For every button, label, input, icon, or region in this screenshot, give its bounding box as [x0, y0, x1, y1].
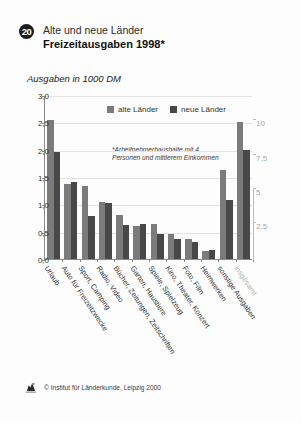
- secondary-axis-tick-label: 7,5: [256, 153, 267, 162]
- header-kicker: Alte und neue Länder: [43, 24, 165, 36]
- page-title: Freizeitausgaben 1998*: [43, 38, 165, 51]
- axis-unit-label: Ausgaben in 1000 DM: [27, 73, 121, 84]
- bar-group: [183, 96, 200, 259]
- footer: © Institut für Länderkunde, Leipzig 2000: [24, 380, 161, 394]
- x-axis-category-labels: UrlaubAuto für FreizeitzweckeSport, Camp…: [44, 264, 252, 360]
- secondary-axis-tick-mark: [253, 222, 256, 223]
- bar: [54, 152, 61, 259]
- x-axis-tick-mark: [114, 259, 115, 262]
- bar: [174, 239, 181, 259]
- x-axis-tick-mark: [166, 259, 167, 262]
- bar-group: [62, 96, 79, 259]
- bar-group: [131, 96, 148, 259]
- secondary-axis-tick-mark: [253, 188, 256, 189]
- bar-group: [218, 96, 235, 259]
- bar: [71, 182, 78, 259]
- x-axis-tick-mark: [62, 259, 63, 262]
- bar-group: [97, 96, 114, 259]
- x-axis-category-label: Urlaub: [42, 264, 62, 287]
- chart-area: alte Länder neue Länder *Arbeitnehmerhau…: [0, 92, 301, 272]
- bar-series-container: [45, 96, 252, 259]
- x-axis-tick-mark: [218, 259, 219, 262]
- y-axis-tick-label: 2,0: [38, 146, 49, 155]
- secondary-axis-tick-label: 2,5: [256, 221, 267, 230]
- bar-group: [166, 96, 183, 259]
- x-axis-tick-mark: [201, 259, 202, 262]
- bar-group: [200, 96, 217, 259]
- secondary-axis-tick-mark: [253, 119, 256, 120]
- secondary-axis-tick-mark: [253, 154, 256, 155]
- bar: [140, 224, 147, 259]
- ifl-logo-icon: [24, 380, 38, 394]
- chart-card: 20 Alte und neue Länder Freizeitausgaben…: [0, 0, 301, 423]
- secondary-axis-tick-label: 5: [256, 187, 260, 196]
- copyright-text: © Institut für Länderkunde, Leipzig 2000: [44, 384, 161, 391]
- bar: [209, 250, 216, 259]
- x-axis-tick-mark: [236, 259, 237, 262]
- y-axis-tick-label: 1,0: [38, 201, 49, 210]
- bar-group: [114, 96, 131, 259]
- bar: [226, 200, 233, 259]
- y-axis-tick-label: 3,0: [38, 92, 49, 101]
- bar: [123, 225, 130, 259]
- bar: [243, 150, 250, 259]
- bar-group: [149, 96, 166, 259]
- secondary-axis-line: [253, 188, 254, 260]
- bar: [192, 242, 199, 259]
- secondary-axis-tick-label: 10: [256, 119, 265, 128]
- figure-number-badge: 20: [19, 24, 34, 39]
- x-axis-tick-mark: [149, 259, 150, 262]
- bar: [88, 216, 95, 259]
- bar-group: [235, 96, 252, 259]
- y-axis-tick-label: 0,5: [38, 228, 49, 237]
- x-axis-tick-mark: [80, 259, 81, 262]
- bar: [157, 234, 164, 259]
- bar-group: [80, 96, 97, 259]
- y-axis-tick-label: 1,5: [38, 174, 49, 183]
- x-axis-tick-mark: [132, 259, 133, 262]
- y-axis-tick-label: 2,5: [38, 119, 49, 128]
- bar: [105, 203, 112, 259]
- x-axis-tick-mark: [97, 259, 98, 262]
- x-axis-tick-mark: [184, 259, 185, 262]
- plot-frame: [44, 96, 252, 260]
- header: 20 Alte und neue Länder Freizeitausgaben…: [19, 24, 279, 51]
